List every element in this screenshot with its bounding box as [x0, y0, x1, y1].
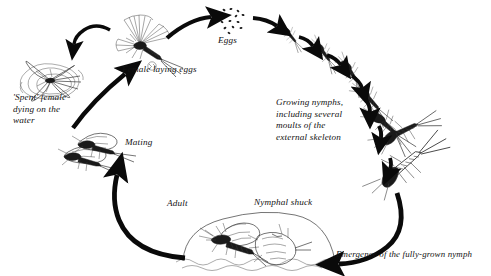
arrow-nymph-3-to-4: [352, 76, 362, 88]
label-eggs: Eggs: [218, 35, 237, 47]
life-cycle-diagram: 'Spent' female dying on the water Female…: [0, 0, 491, 276]
arrow-mating-to-laying: [73, 74, 125, 128]
label-female-laying-eggs: Female laying eggs: [122, 64, 197, 76]
arrow-layer: [0, 0, 491, 276]
arrow-eggs-to-nymph-1: [253, 18, 277, 26]
arrow-nymph-1-to-2: [299, 37, 313, 46]
arrow-adult-to-mating: [114, 175, 185, 258]
label-growing-nymphs: Growing nymphs, including several moults…: [276, 97, 343, 143]
arrow-nymph-2-to-3: [327, 55, 341, 65]
arrow-nymph-4-to-5: [366, 99, 370, 112]
arrow-nymph-6-to-7: [390, 158, 391, 169]
label-adult: Adult: [167, 198, 188, 210]
arrow-to-spent-female: [74, 26, 110, 44]
arrow-laying-to-eggs: [167, 17, 211, 38]
label-mating: Mating: [125, 137, 152, 149]
arrow-nymph-5-to-6: [379, 126, 381, 138]
label-spent-female: 'Spent' female dying on the water: [13, 92, 66, 127]
label-nymphal-shuck: Nymphal shuck: [254, 197, 312, 209]
label-emergence: Emergence of the fully-grown nymph: [336, 249, 472, 261]
